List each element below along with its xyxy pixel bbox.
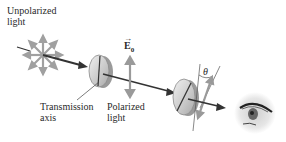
polarizer-disk-icon [89, 55, 113, 88]
label-polarized-light: Polarized light [107, 101, 145, 123]
label-unpolarized: Unpolarized light [7, 5, 56, 27]
label-transmission-axis: Transmission axis [40, 101, 94, 123]
beam-segment-2 [103, 74, 176, 96]
e-field-double-arrow-icon [126, 57, 134, 97]
eye-icon [234, 92, 276, 134]
incoming-beam [17, 47, 30, 51]
transmission-leader [77, 82, 99, 100]
label-e0-vector: →E0 [124, 40, 134, 56]
label-theta: θ [203, 66, 208, 77]
transmitted-field-arrow-icon [197, 77, 213, 118]
